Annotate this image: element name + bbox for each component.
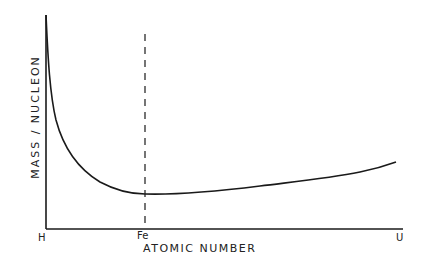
tick-label-h: H <box>38 232 46 243</box>
chart-canvas <box>0 0 425 268</box>
tick-label-fe: Fe <box>137 230 148 241</box>
tick-label-u: U <box>396 232 403 243</box>
mass-per-nucleon-curve <box>46 15 396 194</box>
x-axis-label: ATOMIC NUMBER <box>143 242 256 255</box>
y-axis-label: MASS / NUCLEON <box>29 55 42 179</box>
